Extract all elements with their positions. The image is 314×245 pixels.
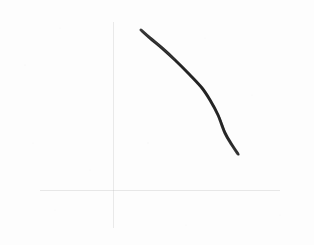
sketch-figure-canvas [0, 0, 314, 245]
paper-background [0, 0, 314, 245]
y-axis [113, 8, 114, 240]
plot-svg [0, 0, 314, 245]
x-axis [22, 191, 298, 192]
